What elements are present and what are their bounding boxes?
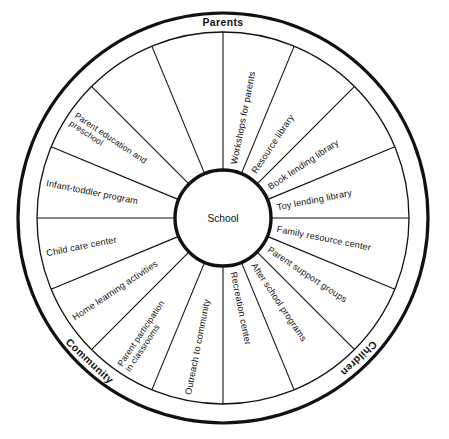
segment-label: Infant-toddler program <box>45 178 138 206</box>
hub-label: School <box>207 213 238 224</box>
hub-group: School <box>175 170 271 266</box>
segment-label: Home learning activities <box>71 258 160 322</box>
segment-label: Outreach to community <box>183 298 212 396</box>
ring-label-parents: Parents <box>203 17 244 28</box>
segment-label: Workshops for parents <box>229 70 257 165</box>
segment-label: Resource library <box>250 112 297 175</box>
segment-label: Child care center <box>46 235 118 259</box>
wheel-svg: Workshops for parentsResource libraryBoo… <box>0 0 449 439</box>
ring-label-community: Community <box>64 336 116 385</box>
segment-label: Family resource center <box>276 224 372 252</box>
segment-label: Parent education and <box>73 110 149 165</box>
wheel-diagram: Workshops for parentsResource libraryBoo… <box>0 0 449 439</box>
